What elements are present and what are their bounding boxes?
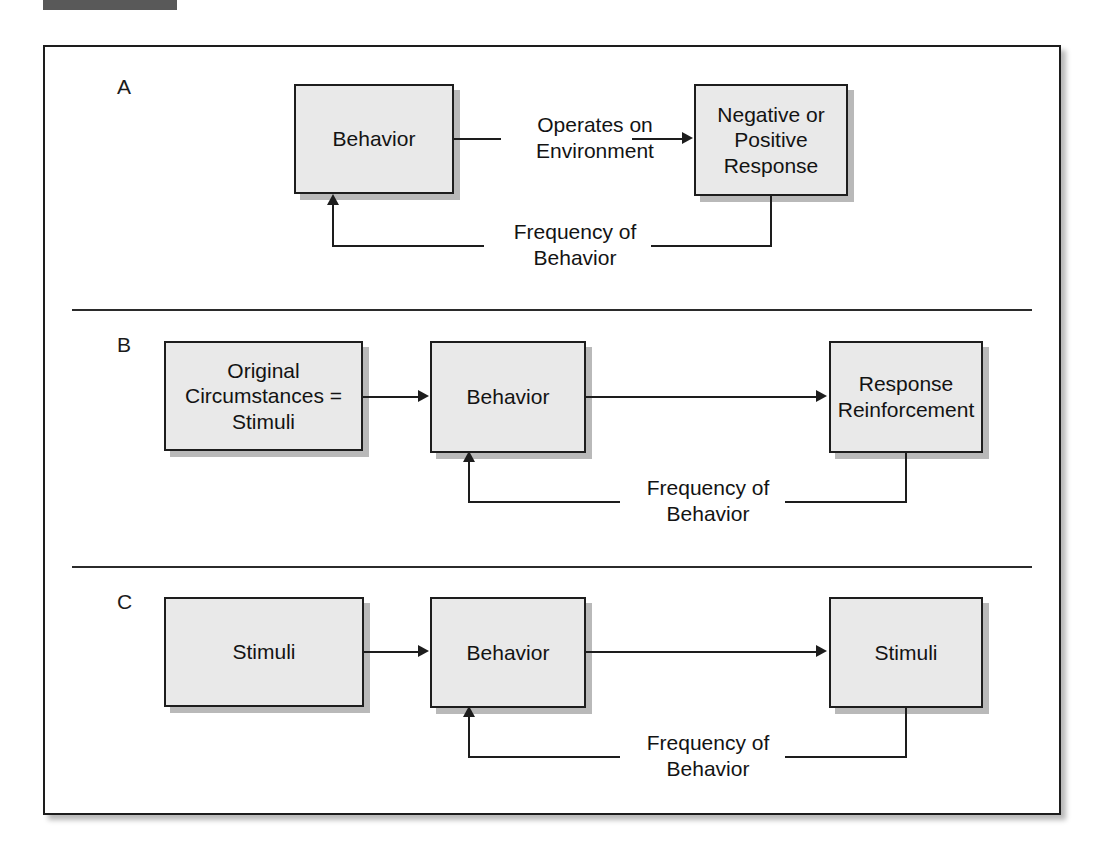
panel-c-label: C bbox=[117, 590, 132, 614]
panel-c-feedback-across-right bbox=[785, 756, 907, 758]
panel-a-arrow-to-behavior bbox=[327, 194, 339, 205]
panel-c-connector-2 bbox=[586, 651, 817, 653]
panel-b-connector-1 bbox=[363, 396, 419, 398]
panel-a-feedback-across-left bbox=[332, 245, 484, 247]
panel-b-label: B bbox=[117, 333, 131, 357]
panel-b-arrow-to-behavior-loop bbox=[463, 451, 475, 462]
panel-c-edge-label-frequency: Frequency of Behavior bbox=[618, 730, 798, 781]
panel-c-arrow-to-behavior bbox=[418, 645, 429, 657]
panel-c-feedback-across-left bbox=[468, 756, 620, 758]
panel-a-label: A bbox=[117, 75, 131, 99]
panel-b: B Original Circumstances = Stimuli Behav… bbox=[45, 311, 1059, 568]
panel-c-arrow-to-stimuli bbox=[816, 645, 827, 657]
panel-a-node-response: Negative or Positive Response bbox=[694, 84, 848, 196]
panel-b-edge-label-frequency: Frequency of Behavior bbox=[618, 475, 798, 526]
panel-c: C Stimuli Behavior Stimuli Frequency of … bbox=[45, 568, 1059, 817]
panel-b-connector-2 bbox=[586, 396, 817, 398]
panel-a-node-behavior: Behavior bbox=[294, 84, 454, 194]
page-header-bar bbox=[43, 0, 177, 10]
panel-a-feedback-across-right bbox=[651, 245, 772, 247]
panel-c-connector-1 bbox=[364, 651, 419, 653]
panel-c-node-stimuli-right: Stimuli bbox=[829, 597, 983, 708]
panel-b-node-behavior: Behavior bbox=[430, 341, 586, 453]
panel-a: A Behavior Negative or Positive Response… bbox=[45, 47, 1059, 311]
panel-a-feedback-up bbox=[332, 204, 334, 247]
panel-b-feedback-up bbox=[468, 461, 470, 503]
panel-b-arrow-to-behavior bbox=[418, 390, 429, 402]
panel-b-feedback-down bbox=[905, 453, 907, 503]
panel-b-arrow-to-reinforcement bbox=[816, 390, 827, 402]
panel-c-arrow-to-behavior-loop bbox=[463, 706, 475, 717]
panel-a-edge-label-frequency: Frequency of Behavior bbox=[485, 219, 665, 270]
panel-b-node-response-reinforcement: Response Reinforcement bbox=[829, 341, 983, 453]
panel-a-arrow-to-response bbox=[682, 132, 693, 144]
panel-b-feedback-across-right bbox=[785, 501, 907, 503]
panel-a-connector-stub-right bbox=[632, 138, 682, 140]
panel-c-node-stimuli-left: Stimuli bbox=[164, 597, 364, 707]
figure-frame: A Behavior Negative or Positive Response… bbox=[43, 45, 1061, 815]
panel-c-feedback-up bbox=[468, 716, 470, 758]
panel-c-feedback-down bbox=[905, 708, 907, 758]
panel-b-node-original-circumstances: Original Circumstances = Stimuli bbox=[164, 341, 363, 451]
panel-c-node-behavior: Behavior bbox=[430, 597, 586, 708]
panel-a-feedback-down bbox=[770, 196, 772, 247]
panel-a-connector-stub-left bbox=[454, 138, 501, 140]
panel-b-feedback-across-left bbox=[468, 501, 620, 503]
